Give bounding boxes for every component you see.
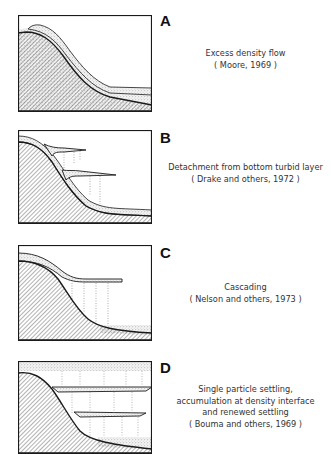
caption-line: accumulation at density interface: [160, 396, 331, 408]
panel-c-caption: Cascading ( Nelson and others, 1973 ): [160, 282, 331, 305]
panel-a-letter: A: [160, 12, 171, 29]
panel-d-letter: D: [160, 359, 171, 376]
caption-line: Single particle settling,: [160, 384, 331, 396]
panel-b-caption: Detachment from bottom turbid layer ( Dr…: [160, 162, 331, 185]
caption-line: Excess density flow: [160, 48, 331, 60]
panel-c-diagram: [18, 245, 152, 341]
panel-c-letter: C: [160, 244, 171, 261]
panel-d-caption: Single particle settling, accumulation a…: [160, 384, 331, 430]
caption-line: Detachment from bottom turbid layer: [160, 162, 331, 174]
panel-a-caption: Excess density flow ( Moore, 1969 ): [160, 48, 331, 71]
caption-citation: ( Drake and others, 1972 ): [160, 174, 331, 186]
caption-citation: ( Bouma and others, 1969 ): [160, 419, 331, 431]
panel-d-diagram: [18, 361, 152, 454]
panel-b-letter: B: [160, 129, 171, 146]
caption-line: and renewed settling: [160, 407, 331, 419]
caption-citation: ( Nelson and others, 1973 ): [160, 294, 331, 306]
panel-b-diagram: [18, 130, 152, 224]
caption-citation: ( Moore, 1969 ): [160, 60, 331, 72]
panel-a-diagram: [18, 15, 152, 112]
caption-line: Cascading: [160, 282, 331, 294]
